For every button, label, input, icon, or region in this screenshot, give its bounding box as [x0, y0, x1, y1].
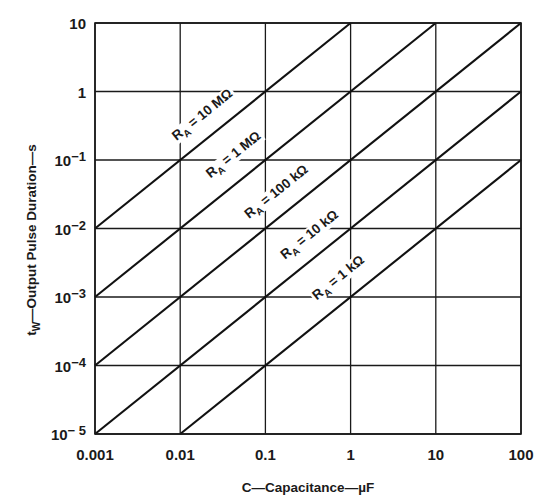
series-label-rest: = 10 MΩ — [182, 86, 235, 133]
y-tick-base: 10 — [54, 221, 71, 238]
y-tick-exponent: − 5 — [68, 423, 86, 438]
x-tick-label: 0.001 — [76, 446, 114, 463]
y-tick-exponent: −2 — [71, 218, 86, 233]
y-tick-base: 10 — [69, 15, 86, 32]
y-tick-label: 10−3 — [54, 286, 86, 306]
series-labels: RA = 10 MΩRA = 1 MΩRA = 100 kΩRA = 10 kΩ… — [167, 84, 370, 306]
series-label: RA = 10 kΩ — [276, 206, 345, 266]
series-line — [95, 23, 521, 366]
y-tick-base: 10 — [51, 426, 68, 443]
x-tick-label: 0.1 — [255, 446, 276, 463]
y-tick-base: 10 — [54, 358, 71, 375]
series-label-rest: = 1 kΩ — [323, 252, 368, 292]
x-tick-label: 0.01 — [166, 446, 195, 463]
y-tick-label: 1 — [78, 84, 86, 101]
x-tick-label: 10 — [427, 446, 444, 463]
series-line — [95, 92, 521, 435]
series-label-text: RA = 10 MΩ — [169, 86, 237, 146]
series-label-rest: = 100 kΩ — [255, 161, 311, 210]
y-tick-base: 10 — [54, 152, 71, 169]
y-tick-label: 10−2 — [54, 218, 86, 238]
x-axis-ticks: 0.0010.010.1110100 — [76, 446, 533, 463]
y-axis-ticks: 10110−110−210−310−410− 5 — [51, 15, 87, 443]
series-line — [95, 23, 351, 229]
y-tick-exponent: −3 — [71, 286, 86, 301]
y-tick-exponent: −1 — [71, 149, 86, 164]
series-label: RA = 10 MΩ — [167, 84, 239, 147]
x-axis-label: C—Capacitance—µF — [242, 480, 374, 495]
y-axis-label-rest: —Output Pulse Duration—s — [24, 144, 39, 322]
y-tick-label: 10− 5 — [51, 423, 86, 443]
y-tick-label: 10 — [69, 15, 86, 32]
y-tick-label: 10−4 — [54, 355, 86, 375]
series-label: RA = 100 kΩ — [240, 160, 315, 225]
y-tick-exponent: −4 — [71, 355, 87, 370]
series-label-text: RA = 1 MΩ — [203, 128, 266, 183]
series-label: RA = 1 kΩ — [308, 251, 371, 306]
series-label-rest: = 1 MΩ — [216, 128, 264, 170]
x-tick-label: 100 — [508, 446, 533, 463]
y-tick-base: 1 — [78, 84, 86, 101]
y-tick-base: 10 — [54, 289, 71, 306]
chart: RA = 10 MΩRA = 1 MΩRA = 100 kΩRA = 10 kΩ… — [0, 0, 543, 502]
y-tick-label: 10−1 — [54, 149, 86, 169]
series-label-text: RA = 10 kΩ — [277, 207, 343, 265]
y-axis-label: tW—Output Pulse Duration—s — [24, 144, 42, 336]
x-tick-label: 1 — [346, 446, 354, 463]
